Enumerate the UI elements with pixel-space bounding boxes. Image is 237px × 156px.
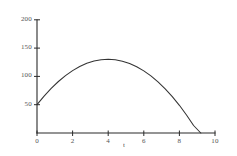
y-tick-label-100: 100: [12, 71, 32, 79]
x-tick-label-10: 10: [207, 137, 223, 145]
chart-figure: 200 150 100 50 0 2 4 6 8 10 t: [0, 0, 237, 156]
x-axis-title: t: [118, 141, 130, 149]
x-tick-label-8: 8: [171, 137, 187, 145]
height-curve: [37, 59, 201, 133]
y-tick-label-200: 200: [12, 15, 32, 23]
y-tick-label-50: 50: [12, 100, 32, 108]
x-tick-label-2: 2: [65, 137, 81, 145]
plot-canvas: [0, 0, 237, 156]
y-tick-label-150: 150: [12, 43, 32, 51]
x-tick-label-0: 0: [29, 137, 45, 145]
x-tick-label-4: 4: [100, 137, 116, 145]
x-tick-label-6: 6: [136, 137, 152, 145]
